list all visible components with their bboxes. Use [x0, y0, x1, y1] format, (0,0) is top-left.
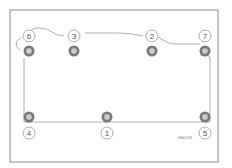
bolt-2 [147, 46, 158, 57]
callout-5: 5 [199, 127, 211, 139]
bolt-washer-icon [104, 114, 110, 120]
bolt-3 [69, 46, 80, 57]
bolt-4 [24, 112, 35, 123]
callout-number: 3 [72, 32, 77, 41]
bolt-washer-icon [149, 48, 155, 54]
bolt-washer-icon [202, 114, 208, 120]
bolt-washer-icon [71, 48, 77, 54]
callout-number: 2 [150, 32, 155, 41]
bolt-7 [200, 46, 211, 57]
callout-number: 6 [27, 32, 32, 41]
bolt-5 [200, 112, 211, 123]
callout-number: 5 [203, 129, 208, 138]
callout-7: 7 [199, 30, 211, 42]
reference-code: H40149 [178, 135, 193, 140]
callout-number: 7 [203, 32, 208, 41]
callout-1: 1 [101, 127, 113, 139]
callout-2: 2 [146, 30, 158, 42]
bolt-6 [24, 46, 35, 57]
callout-3: 3 [68, 30, 80, 42]
bolt-washer-icon [26, 48, 32, 54]
bolt-washer-icon [26, 114, 32, 120]
bolt-washer-icon [202, 48, 208, 54]
callout-6: 6 [23, 30, 35, 42]
callout-number: 1 [105, 129, 110, 138]
bolt-1 [102, 112, 113, 123]
bolt-sequence-diagram: 1234567 H40149 [0, 0, 232, 168]
callout-4: 4 [23, 127, 35, 139]
callout-number: 4 [27, 129, 32, 138]
